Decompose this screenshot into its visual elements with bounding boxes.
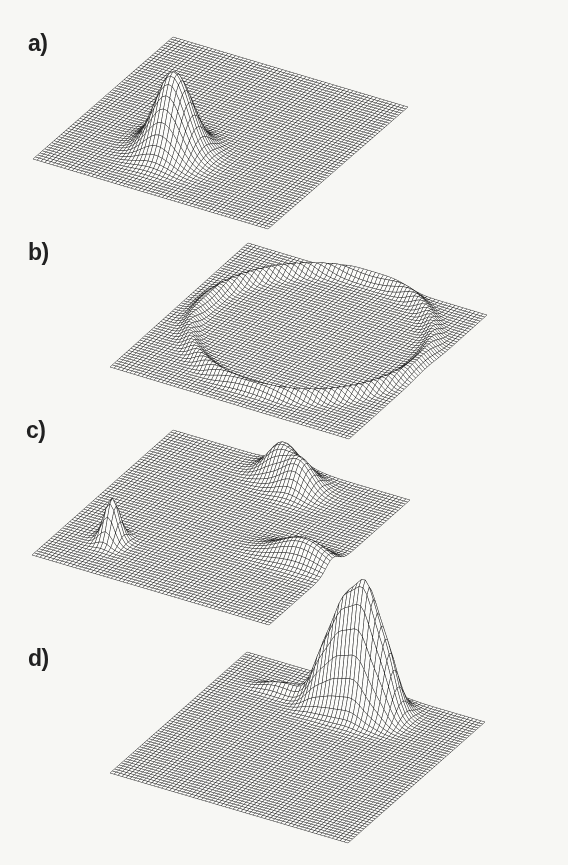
- panel-label-d: d): [28, 645, 49, 672]
- panel-label-c: c): [26, 417, 45, 444]
- panel-label-b: b): [28, 239, 49, 266]
- panel-label-a: a): [28, 30, 47, 57]
- figure-3d-surface-plots: a) b) c) d): [0, 0, 568, 865]
- mesh-plots-canvas: [0, 0, 568, 865]
